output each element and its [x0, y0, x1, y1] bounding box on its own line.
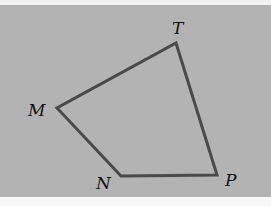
- vertex-label-p: P: [224, 170, 237, 190]
- vertex-label-n: N: [95, 173, 112, 193]
- vertex-label-m: M: [27, 100, 46, 120]
- quadrilateral-diagram: T P N M: [0, 0, 271, 206]
- vertex-label-t: T: [172, 18, 185, 38]
- quadrilateral-shape: [57, 43, 217, 176]
